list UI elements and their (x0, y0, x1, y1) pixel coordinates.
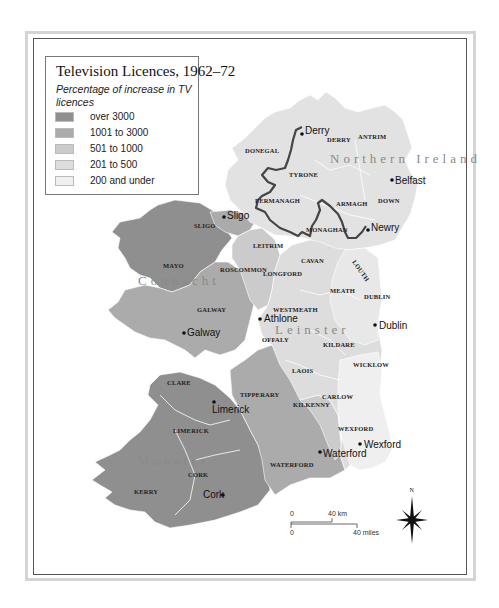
county-label-monaghan: MONAGHAN (306, 226, 348, 233)
svg-text:Derry: Derry (305, 125, 329, 136)
region-label-connacht: Connacht (138, 273, 220, 288)
legend-swatch (55, 144, 74, 154)
county-label-meath: MEATH (330, 287, 355, 294)
svg-text:Limerick: Limerick (212, 404, 250, 415)
svg-text:Athlone: Athlone (264, 313, 298, 324)
legend-subtitle: Percentage of increase in TV licences (56, 83, 196, 109)
county-label-dublin: DUBLIN (364, 293, 391, 300)
legend-swatch (55, 176, 74, 186)
town-cork: Cork (203, 489, 225, 500)
county-label-down: DOWN (378, 197, 400, 204)
county-label-westmeath: WESTMEATH (273, 306, 318, 313)
county-label-clare: CLARE (167, 379, 191, 386)
compass-north-label: N (410, 487, 415, 493)
county-label-tipperary: TIPPERARY (240, 391, 280, 398)
legend-swatch (55, 112, 74, 122)
region-label-northern-ireland: Northern Ireland (330, 151, 481, 166)
county-label-kildare: KILDARE (323, 341, 355, 348)
county-label-antrim: ANTRIM (358, 133, 386, 140)
county-label-donegal: DONEGAL (245, 147, 280, 154)
county-label-longford: LONGFORD (263, 270, 302, 277)
town-waterford: Waterford (318, 448, 366, 459)
county-label-laois: LAOIS (292, 367, 313, 374)
scale-km-label: 40 km (328, 510, 347, 517)
svg-text:Wexford: Wexford (364, 439, 401, 450)
county-label-wexford: WEXFORD (338, 425, 373, 432)
svg-text:Cork: Cork (203, 489, 225, 500)
svg-text:Waterford: Waterford (323, 448, 367, 459)
region-label-leinster: Leinster (275, 322, 350, 337)
svg-text:Sligo: Sligo (227, 210, 250, 221)
county-label-kerry: KERRY (134, 488, 158, 495)
compass-rose-icon: N (396, 487, 428, 544)
county-label-limerick: LIMERICK (173, 427, 209, 434)
town-athlone: Athlone (258, 313, 298, 324)
legend-title: Television Licences, 1962–72 (56, 63, 235, 80)
county-label-roscommon: ROSCOMMON (220, 266, 267, 273)
legend-swatch (55, 160, 74, 170)
county-label-carlow: CARLOW (322, 393, 353, 400)
county-label-fermanagh: FERMANAGH (255, 197, 300, 204)
map-legend: Television Licences, 1962–72 Percentage … (45, 56, 199, 195)
town-dublin: Dublin (373, 320, 407, 331)
scale-mi-label: 40 miles (353, 529, 380, 536)
county-label-armagh: ARMAGH (336, 200, 368, 207)
scale-bar: 0 40 km 0 40 miles (290, 510, 380, 536)
town-newry: Newry (366, 222, 399, 233)
town-wexford: Wexford (358, 439, 401, 450)
county-label-sligo: SLIGO (194, 222, 216, 229)
county-label-cork: CORK (188, 471, 208, 478)
svg-text:Belfast: Belfast (395, 175, 426, 186)
county-label-derry: DERRY (327, 136, 351, 143)
town-galway: Galway (182, 327, 220, 338)
legend-swatch (55, 128, 74, 138)
county-label-waterford: WATERFORD (270, 461, 314, 468)
county-label-cavan: CAVAN (301, 257, 324, 264)
county-label-galway: GALWAY (197, 306, 226, 313)
scale-km-zero: 0 (290, 510, 294, 517)
town-derry: Derry (300, 125, 329, 136)
county-label-offaly: OFFALY (262, 336, 289, 343)
county-label-wicklow: WICKLOW (353, 361, 389, 368)
scale-mi-zero: 0 (290, 529, 294, 536)
town-belfast: Belfast (390, 175, 426, 186)
town-sligo: Sligo (222, 210, 249, 221)
county-label-mayo: MAYO (163, 262, 184, 269)
county-label-leitrim: LEITRIM (253, 242, 283, 249)
svg-text:Dublin: Dublin (379, 320, 407, 331)
county-label-tyrone: TYRONE (289, 171, 318, 178)
region-label-munster: Munster (138, 453, 209, 468)
svg-text:Galway: Galway (187, 327, 220, 338)
svg-text:Newry: Newry (371, 222, 399, 233)
county-label-kilkenny: KILKENNY (293, 401, 330, 408)
